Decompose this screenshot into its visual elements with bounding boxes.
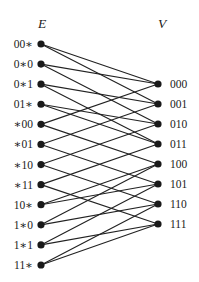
vertex-node-label: 101 [170,178,188,190]
edge-node-label: ∗00 [14,118,34,130]
edge-node-label: 1∗1 [14,239,34,251]
vertex-node-label: 000 [170,78,188,90]
nodes-group: 00∗0∗00∗101∗∗00∗01∗10∗1110∗1∗01∗111∗0000… [14,38,188,271]
incidence-edge-line [41,84,158,124]
edge-node-dot [37,121,44,128]
graph-svg: 00∗0∗00∗101∗∗00∗01∗10∗1110∗1∗01∗111∗0000… [0,0,199,282]
edge-node-label: ∗01 [14,138,34,150]
incidence-edge-line [41,204,158,265]
incidence-edge-line [41,185,158,224]
edge-node-dot [37,261,44,268]
edge-node-dot [37,201,44,208]
incidence-edge-line [41,64,158,84]
vertex-node-dot [154,80,161,87]
edges-group [41,44,158,265]
vertex-node-label: 001 [170,98,188,110]
edge-node-label: ∗11 [14,179,33,191]
edge-node-dot [37,221,44,228]
vertex-node-dot [154,140,161,147]
vertex-node-dot [154,120,161,127]
edge-node-label: 0∗1 [14,78,34,90]
vertex-node-label: 110 [170,198,187,210]
edge-node-label: 0∗0 [14,58,34,70]
edge-node-dot [37,81,44,88]
incidence-edge-line [41,224,158,265]
incidence-edge-line [41,104,158,124]
edge-node-label: 10∗ [14,199,33,211]
edge-node-dot [37,241,44,248]
incidence-edge-line [41,184,158,245]
edge-node-label: 00∗ [14,38,33,50]
incidence-edge-line [41,44,158,84]
edge-node-dot [37,101,44,108]
vertex-node-dot [154,180,161,187]
vertex-node-dot [154,100,161,107]
edge-node-label: 11∗ [14,259,33,271]
edge-node-dot [37,161,44,168]
left-column-header: E [37,16,47,31]
edge-node-label: 01∗ [14,98,33,110]
edge-node-dot [37,141,44,148]
edge-node-dot [37,60,44,67]
incidence-diagram: 00∗0∗00∗101∗∗00∗01∗10∗1110∗1∗01∗111∗0000… [0,0,199,282]
incidence-edge-line [41,84,158,104]
incidence-edge-line [41,164,158,225]
edge-node-label: 1∗0 [14,219,34,231]
vertex-node-label: 011 [170,138,187,150]
vertex-node-label: 111 [170,218,187,230]
edge-node-label: ∗10 [14,159,34,171]
edge-node-dot [37,181,44,188]
vertex-node-label: 100 [170,158,188,170]
vertex-node-dot [154,160,161,167]
vertex-node-dot [154,200,161,207]
vertex-node-dot [154,220,161,227]
edge-node-dot [37,40,44,47]
right-column-header: V [158,16,168,31]
vertex-node-label: 010 [170,118,188,130]
